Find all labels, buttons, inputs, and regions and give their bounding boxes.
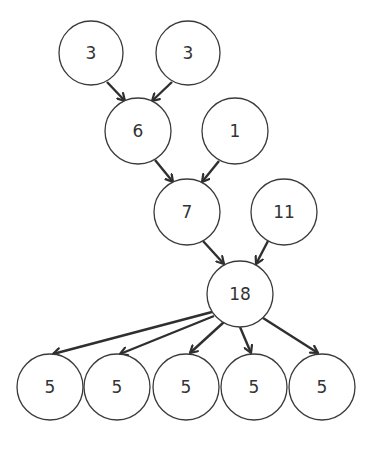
- node-label: 6: [133, 121, 144, 141]
- node-label: 7: [182, 202, 193, 222]
- node-label: 5: [249, 377, 260, 397]
- node-label: 5: [181, 377, 192, 397]
- edge-arrow: [263, 318, 318, 353]
- node-label: 11: [273, 202, 295, 222]
- tree-node: 5: [221, 354, 287, 420]
- tree-node: 3: [156, 21, 220, 85]
- edge-arrow: [190, 322, 224, 353]
- tree-node: 18: [207, 261, 273, 327]
- node-label: 18: [229, 284, 251, 304]
- arrow-line: [120, 316, 214, 354]
- tree-node: 3: [59, 21, 123, 85]
- tree-node: 5: [153, 354, 219, 420]
- node-label: 1: [230, 121, 241, 141]
- node-label: 3: [183, 43, 194, 63]
- arrow-line: [203, 241, 224, 264]
- tree-node: 6: [105, 98, 171, 164]
- node-label: 5: [45, 377, 56, 397]
- tree-node: 5: [289, 354, 355, 420]
- arrow-line: [190, 322, 224, 353]
- edge-arrow: [240, 327, 251, 353]
- tree-node: 5: [84, 354, 150, 420]
- arrow-line: [256, 241, 268, 264]
- edge-arrow: [107, 82, 125, 101]
- edge-arrow: [202, 161, 219, 182]
- arrow-line: [107, 82, 125, 101]
- edge-arrow: [155, 160, 173, 182]
- tree-node: 5: [17, 354, 83, 420]
- arrow-line: [155, 160, 173, 182]
- arrow-line: [202, 161, 219, 182]
- arrow-line: [263, 318, 318, 353]
- node-label: 5: [317, 377, 328, 397]
- node-label: 3: [86, 43, 97, 63]
- arrow-line: [152, 82, 172, 101]
- edge-arrow: [152, 82, 172, 101]
- node-label: 5: [112, 377, 123, 397]
- tree-node: 1: [202, 98, 268, 164]
- arrow-line: [240, 327, 251, 353]
- nodes-layer: 33617111855555: [17, 21, 355, 420]
- edge-arrow: [256, 241, 268, 264]
- tree-diagram: 33617111855555: [0, 0, 375, 449]
- tree-node: 7: [154, 179, 220, 245]
- edge-arrow: [203, 241, 224, 264]
- tree-node: 11: [251, 179, 317, 245]
- edge-arrow: [120, 316, 214, 354]
